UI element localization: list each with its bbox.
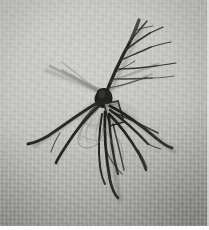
right-edge-trim (207, 0, 209, 230)
right-roots (109, 106, 172, 170)
left-roots (28, 102, 100, 163)
specimen-photograph: plant seedling specimen with root system (0, 0, 209, 230)
plant-specimen (0, 0, 209, 230)
bottom-edge-trim (0, 226, 209, 230)
